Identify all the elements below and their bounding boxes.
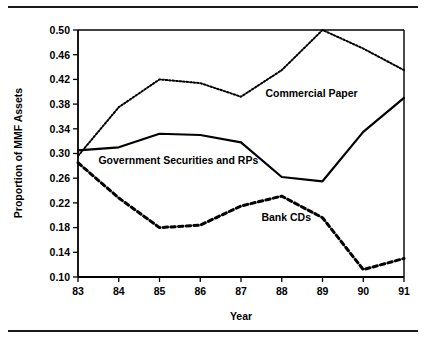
x-tick-label: 84	[113, 285, 125, 297]
x-tick-label: 91	[398, 285, 410, 297]
x-axis-title: Year	[230, 310, 252, 322]
x-tick-label: 87	[235, 285, 247, 297]
x-tick-label: 90	[357, 285, 369, 297]
x-tick-label: 89	[317, 285, 329, 297]
figure-container: 0.500.460.420.380.340.300.260.220.180.14…	[0, 0, 426, 344]
y-tick-label: 0.22	[50, 197, 71, 209]
x-tick-label: 88	[276, 285, 288, 297]
y-axis-title: Proportion of MMF Assets	[12, 88, 24, 218]
y-tick-label: 0.46	[50, 49, 71, 61]
series-label-government-securities-and-rps: Government Securities and RPs	[98, 154, 258, 166]
y-tick-label: 0.50	[50, 24, 71, 36]
x-tick-label: 83	[72, 285, 84, 297]
series-label-commercial-paper: Commercial Paper	[265, 87, 357, 99]
line-chart: 0.500.460.420.380.340.300.260.220.180.14…	[0, 0, 426, 344]
x-tick-label: 85	[154, 285, 166, 297]
series-label-bank-cds: Bank CDs	[261, 211, 311, 223]
y-tick-label: 0.34	[50, 123, 71, 135]
y-tick-label: 0.42	[50, 73, 71, 85]
y-tick-label: 0.10	[50, 271, 71, 283]
x-tick-label: 86	[194, 285, 206, 297]
y-tick-label: 0.18	[50, 221, 71, 233]
y-tick-label: 0.14	[50, 246, 71, 258]
series-annotations: Commercial PaperGovernment Securities an…	[98, 87, 357, 224]
series-line-government-securities-and-rps	[78, 98, 404, 181]
y-axis-ticks: 0.500.460.420.380.340.300.260.220.180.14…	[50, 24, 78, 283]
x-axis-ticks: 838485868788899091	[72, 277, 410, 297]
y-tick-label: 0.26	[50, 172, 71, 184]
series-group	[78, 30, 404, 270]
y-tick-label: 0.38	[50, 98, 71, 110]
y-tick-label: 0.30	[50, 147, 71, 159]
series-line-bank-cds	[78, 163, 404, 270]
